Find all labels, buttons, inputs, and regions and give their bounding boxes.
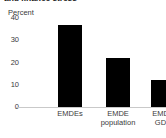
- bar: [58, 25, 82, 107]
- y-tick-label: 30: [11, 37, 19, 45]
- plot-area: 010203040 EMDEsEMDEpopulationEMDEGDP: [22, 18, 166, 107]
- x-tick-label: EMDEs: [47, 110, 93, 119]
- x-tick-label: EMDEpopulation: [95, 110, 141, 127]
- y-tick-label: 20: [11, 59, 19, 67]
- x-tick-label-line: EMDEs: [47, 110, 93, 119]
- bar-chart-figure: and finance stress Percent 010203040 EMD…: [0, 0, 166, 138]
- chart-title: and finance stress: [4, 0, 162, 4]
- x-axis-baseline: [16, 107, 166, 108]
- bar: [106, 58, 130, 107]
- x-tick-label-line: population: [95, 119, 141, 128]
- y-tick-label: 10: [11, 81, 19, 89]
- bar: [151, 80, 166, 107]
- x-tick-label: EMDEGDP: [140, 110, 166, 127]
- y-tick-label: 40: [11, 14, 19, 22]
- x-tick-label-line: GDP: [140, 119, 166, 128]
